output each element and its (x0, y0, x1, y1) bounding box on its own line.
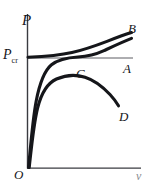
x-axis-label: v (136, 170, 141, 182)
curve-label-b: B (128, 22, 136, 35)
critical-pressure-subscript: cr (12, 56, 19, 65)
curve-label-c: C (76, 67, 85, 80)
critical-pressure-symbol: P (3, 47, 12, 62)
curve-label-a: A (123, 62, 131, 75)
pv-diagram-figure: P Pcr B A C D O v (0, 0, 151, 195)
curve-label-d: D (119, 110, 128, 123)
isotherm-curve-d (29, 75, 118, 167)
y-axis-label: P (22, 13, 31, 28)
critical-pressure-tick-label: Pcr (3, 48, 18, 65)
origin-label: O (14, 168, 23, 181)
